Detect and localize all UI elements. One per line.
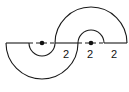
length-label-1: 2 bbox=[63, 48, 69, 60]
semicircle-annulus-diagram: 2 2 2 bbox=[0, 0, 129, 92]
length-label-3: 2 bbox=[111, 48, 117, 60]
upper-outer-arc bbox=[55, 7, 127, 43]
length-label-2: 2 bbox=[87, 48, 93, 60]
center-dot-left bbox=[40, 41, 45, 46]
center-dot-right bbox=[89, 41, 94, 46]
